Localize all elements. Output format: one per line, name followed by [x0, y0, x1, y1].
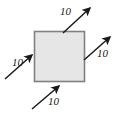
shear-force-diagram: 10 10 10 10: [0, 0, 116, 113]
square-element: [35, 32, 85, 82]
top-force-label: 10: [60, 6, 71, 17]
bottom-force-label: 10: [48, 96, 59, 107]
left-force-label: 10: [12, 57, 23, 68]
right-force-label: 10: [97, 48, 108, 59]
